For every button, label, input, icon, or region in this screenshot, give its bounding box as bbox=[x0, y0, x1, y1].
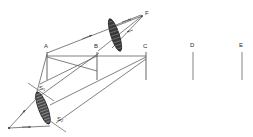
label-A: A bbox=[44, 43, 48, 49]
label-S1-subscript: 1 bbox=[43, 87, 45, 92]
source-point bbox=[8, 127, 10, 129]
label-D: D bbox=[190, 42, 194, 48]
label-F: F bbox=[145, 10, 149, 16]
arrow-A-to-F bbox=[82, 35, 92, 39]
lower-lens bbox=[33, 90, 53, 125]
label-S1: S1 bbox=[39, 85, 45, 91]
label-E: E bbox=[239, 42, 243, 48]
diagram-canvas: A B C D E F S1 S2 bbox=[0, 0, 253, 137]
ray-cross-A-B bbox=[47, 57, 97, 71]
label-S2-subscript: 2 bbox=[61, 118, 63, 123]
ray-lensBottom-to-C bbox=[56, 59, 146, 123]
arrow-source-upper bbox=[20, 110, 25, 116]
ray-C-to-lens bbox=[50, 57, 146, 105]
label-B: B bbox=[94, 43, 98, 49]
ray-B-down-left bbox=[40, 56, 97, 84]
focus-point-F bbox=[141, 15, 143, 17]
optical-ray-diagram-svg bbox=[0, 0, 253, 137]
label-S2: S2 bbox=[57, 116, 63, 122]
label-C: C bbox=[143, 43, 147, 49]
ray-paths-group bbox=[9, 15, 146, 128]
